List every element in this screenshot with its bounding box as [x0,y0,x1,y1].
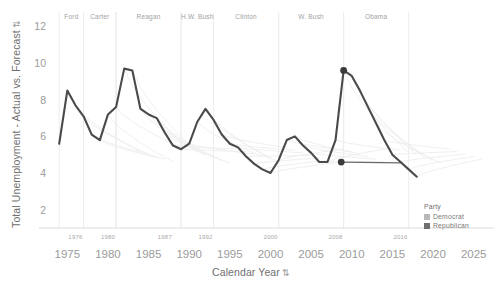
x-tick-label: 2020 [420,248,446,260]
x-tick-label: 2005 [298,248,324,260]
legend-title: Party [424,203,498,210]
x-term-tick-label: 1987 [158,234,172,240]
x-tick-label: 2000 [258,248,284,260]
legend-item-label: Democrat [433,213,464,220]
legend-swatch-icon [424,214,430,220]
x-tick-label: 1990 [176,248,202,260]
president-band-label-obama: Obama [365,13,387,20]
president-band-label-w-bush: W. Bush [298,13,324,20]
x-tick-label: 2025 [461,248,487,260]
legend-item-republican[interactable]: Republican [424,222,498,229]
x-term-tick-label: 2000 [263,234,277,240]
president-band-label-clinton: Clinton [235,13,257,20]
x-term-tick-label: 1992 [198,234,212,240]
legend-item-label: Republican [433,222,469,229]
legend-items: DemocratRepublican [424,213,498,229]
unemployment-line-chart: Total Unemployment - Actual vs. Forecast… [0,0,502,286]
actual-unemployment-line [59,69,417,177]
president-band-label-reagan: Reagan [137,13,161,20]
president-band-label-carter: Carter [90,13,109,20]
president-band-label-h-w-bush: H.W. Bush [181,13,214,20]
legend-swatch-icon [424,223,430,229]
data-point-marker[interactable] [338,159,345,166]
x-term-tick-label: 1976 [68,234,82,240]
data-point-marker[interactable] [340,67,347,74]
x-term-tick-label: 2016 [393,234,407,240]
annotation-line-group [341,162,402,163]
x-tick-label: 1975 [55,248,81,260]
president-band-label-ford: Ford [64,13,78,20]
party-legend: Party DemocratRepublican [424,203,498,231]
x-term-tick-label: 2008 [328,234,342,240]
president-band-dividers [59,12,408,228]
x-tick-label: 1995 [217,248,243,260]
x-tick-label: 2015 [380,248,406,260]
x-term-tick-label: 1980 [101,234,115,240]
x-tick-label: 1985 [136,248,162,260]
x-tick-label: 2010 [339,248,365,260]
plot-area [0,0,502,286]
legend-item-democrat[interactable]: Democrat [424,213,498,220]
x-tick-label: 1980 [95,248,121,260]
